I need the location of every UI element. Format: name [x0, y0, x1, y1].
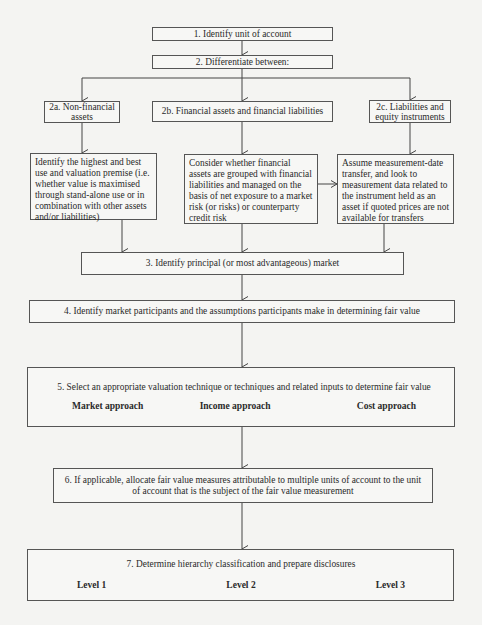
step2c-detail-box: Assume measurement-date transfer, and lo… [337, 154, 454, 224]
step2a-label: 2a. Non-financial assets [45, 102, 119, 122]
step2b-detail-text: Consider whether financial assets are gr… [189, 158, 313, 224]
step1-label: 1. Identify unit of account [194, 29, 292, 40]
cost-approach-label: Cost approach [357, 401, 416, 412]
step2c-box: 2c. Liabilities and equity instruments [369, 100, 451, 123]
step4-label: 4. Identify market participants and the … [64, 306, 420, 317]
step5-label: 5. Select an appropriate valuation techn… [57, 382, 431, 393]
step3-box: 3. Identify principal (or most advantage… [81, 252, 404, 275]
market-approach-label: Market approach [72, 401, 143, 412]
hierarchy-levels: Level 1 Level 2 Level 3 [77, 580, 405, 591]
step2a-box: 2a. Non-financial assets [44, 101, 120, 123]
step3-label: 3. Identify principal (or most advantage… [146, 258, 339, 269]
step5-box: 5. Select an appropriate valuation techn… [27, 367, 455, 427]
step2a-detail-text: Identify the highest and best use and va… [35, 157, 152, 223]
step2c-detail-text: Assume measurement-date transfer, and lo… [342, 158, 449, 224]
step7-label: 7. Determine hierarchy classification an… [127, 559, 356, 570]
step2a-detail-box: Identify the highest and best use and va… [30, 153, 157, 220]
step2b-label: 2b. Financial assets and financial liabi… [162, 106, 323, 117]
level-2-label: Level 2 [226, 580, 255, 591]
level-1-label: Level 1 [77, 580, 106, 591]
step6-label: 6. If applicable, allocate fair value me… [60, 475, 426, 497]
step2b-box: 2b. Financial assets and financial liabi… [152, 101, 333, 122]
step6-box: 6. If applicable, allocate fair value me… [53, 468, 433, 503]
step2c-label: 2c. Liabilities and equity instruments [370, 102, 450, 122]
step2-label: 2. Differentiate between: [196, 57, 289, 68]
valuation-approaches: Market approach Income approach Cost app… [72, 401, 416, 412]
step4-box: 4. Identify market participants and the … [29, 300, 455, 323]
step1-box: 1. Identify unit of account [152, 27, 333, 41]
income-approach-label: Income approach [200, 401, 271, 412]
step2-box: 2. Differentiate between: [152, 55, 333, 69]
step2b-detail-box: Consider whether financial assets are gr… [184, 154, 318, 224]
level-3-label: Level 3 [376, 580, 405, 591]
step7-box: 7. Determine hierarchy classification an… [27, 549, 454, 601]
